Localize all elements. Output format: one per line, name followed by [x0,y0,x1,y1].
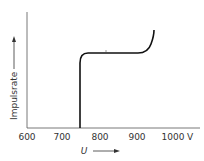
y-arrow-icon [12,36,16,42]
x-arrow-icon [114,149,120,153]
y-axis-label: Impulsrate [9,71,19,120]
chart: 600 700 800 900 1000 V U Impulsrate [0,0,204,161]
x-tick-label: 900 [128,132,145,142]
x-tick-label: 800 [91,132,108,142]
x-unit: V [187,132,194,142]
x-tick-label: 1000 [162,132,185,142]
x-axis-label: U [81,146,88,156]
x-tick-label: 600 [18,132,35,142]
x-tick-label: 700 [53,132,70,142]
plateau-curve [80,30,154,128]
